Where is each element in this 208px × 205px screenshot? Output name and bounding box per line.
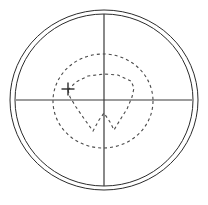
isopter-dashed-circle xyxy=(53,54,153,148)
diagram-canvas xyxy=(0,0,208,205)
visual-field-diagram xyxy=(0,0,208,205)
blind-spot-marker xyxy=(62,83,75,96)
inner-isopter-polygon xyxy=(68,74,134,131)
